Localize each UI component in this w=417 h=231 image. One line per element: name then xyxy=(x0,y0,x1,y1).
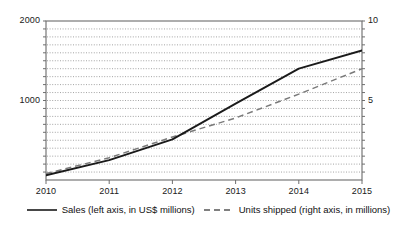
x-axis-label-2012: 2012 xyxy=(152,187,192,196)
x-axis-label-2011: 2011 xyxy=(89,187,129,196)
x-axis-ticks xyxy=(46,180,362,184)
legend-swatch-dashed-icon xyxy=(204,206,234,214)
y-axis-left-label-1000: 1000 xyxy=(0,96,40,105)
y-axis-right-label-10: 10 xyxy=(368,16,417,25)
legend-item-sales: Sales (left axis, in US$ millions) xyxy=(27,205,195,215)
legend-label-sales: Sales (left axis, in US$ millions) xyxy=(62,205,195,215)
legend-swatch-solid-icon xyxy=(27,206,57,214)
y-axis-left-label-2000: 2000 xyxy=(0,16,40,25)
x-axis-label-2010: 2010 xyxy=(26,187,66,196)
legend-item-units-shipped: Units shipped (right axis, in millions) xyxy=(204,205,391,215)
chart-figure: 20001000 105 201020112012201320142015 Sa… xyxy=(0,0,417,231)
x-axis-label-2014: 2014 xyxy=(279,187,319,196)
y-axis-right-label-5: 5 xyxy=(368,96,417,105)
chart-plot-area xyxy=(0,0,417,231)
legend-label-units-shipped: Units shipped (right axis, in millions) xyxy=(239,205,391,215)
chart-legend: Sales (left axis, in US$ millions) Units… xyxy=(0,199,417,221)
x-axis-label-2015: 2015 xyxy=(342,187,382,196)
x-axis-label-2013: 2013 xyxy=(216,187,256,196)
